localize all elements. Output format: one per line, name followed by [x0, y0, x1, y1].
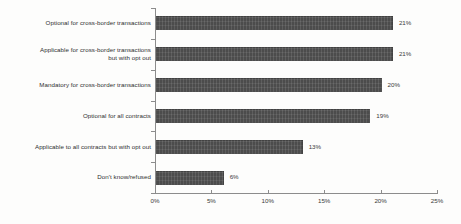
bar — [156, 78, 382, 92]
x-tick-label: 5% — [207, 197, 216, 204]
bar-rows: Optional for cross-border transactions21… — [0, 8, 461, 193]
x-tick — [381, 190, 382, 194]
y-tick — [151, 8, 155, 9]
category-label: Applicable for cross-border transactions… — [0, 46, 151, 62]
x-tick-label: 15% — [318, 197, 330, 204]
category-label: Optional for all contracts — [0, 112, 151, 120]
x-tick-label: 0% — [151, 197, 160, 204]
x-tick-label: 20% — [374, 197, 386, 204]
bar-value-label: 20% — [388, 82, 400, 88]
y-tick — [151, 162, 155, 163]
category-label: Optional for cross-border transactions — [0, 19, 151, 27]
bar — [156, 171, 224, 185]
bar-with-value: 21% — [156, 16, 411, 30]
y-tick — [151, 70, 155, 71]
bar-value-label: 21% — [399, 51, 411, 57]
category-label: Mandatory for cross-border transactions — [0, 81, 151, 89]
bar-value-label: 6% — [230, 174, 239, 180]
x-tick — [268, 190, 269, 194]
category-label: Applicable to all contracts but with opt… — [0, 143, 151, 151]
bar — [156, 16, 393, 30]
bar-with-value: 19% — [156, 109, 389, 123]
y-tick — [151, 131, 155, 132]
bar — [156, 109, 370, 123]
bar-row: Don't know/refused6% — [0, 162, 461, 193]
bar-row: Mandatory for cross-border transactions2… — [0, 70, 461, 101]
x-tick-label: 10% — [262, 197, 274, 204]
y-tick — [151, 39, 155, 40]
bar-with-value: 20% — [156, 78, 400, 92]
bar-row: Optional for all contracts19% — [0, 101, 461, 132]
y-tick — [151, 101, 155, 102]
bar — [156, 47, 393, 61]
bar-with-value: 6% — [156, 171, 239, 185]
x-tick — [211, 190, 212, 194]
bar-row: Optional for cross-border transactions21… — [0, 8, 461, 39]
bar-row: Applicable to all contracts but with opt… — [0, 131, 461, 162]
x-tick — [437, 190, 438, 194]
category-label: Don't know/refused — [0, 173, 151, 181]
x-tick — [324, 190, 325, 194]
bar-with-value: 21% — [156, 47, 411, 61]
bar — [156, 140, 303, 154]
bar-value-label: 13% — [309, 144, 321, 150]
bar-chart: Optional for cross-border transactions21… — [0, 0, 461, 224]
bar-with-value: 13% — [156, 140, 321, 154]
x-tick-label: 25% — [431, 197, 443, 204]
x-tick — [155, 190, 156, 194]
x-axis-line — [155, 193, 438, 194]
bar-value-label: 21% — [399, 20, 411, 26]
bar-value-label: 19% — [376, 113, 388, 119]
bar-row: Applicable for cross-border transactions… — [0, 39, 461, 70]
